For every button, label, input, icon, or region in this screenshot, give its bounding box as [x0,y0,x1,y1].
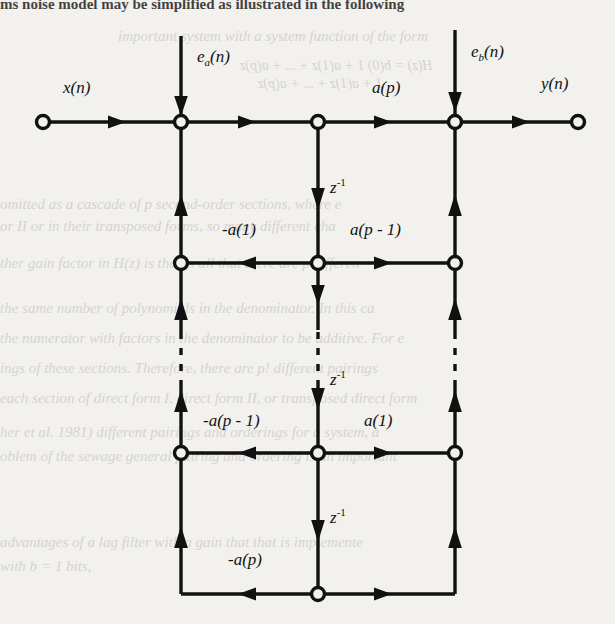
node-top-left[interactable] [175,116,188,129]
label-delay-2: z-1 [330,368,346,390]
label-gain-ap-text: a(p) [372,78,400,97]
arrowhead-right-up-2 [448,298,462,320]
label-input: x(n) [63,78,90,98]
node-row1-left[interactable] [175,257,188,270]
label-row1-left-text: -a(1) [222,220,256,239]
label-noise-a-arg: (n) [210,47,230,66]
label-row2-right-text: a(1) [364,411,392,430]
label-noise-b-arg: (n) [484,42,504,61]
arrowhead-row1-left [238,257,256,270]
label-gain-ap: a(p) [372,78,400,98]
arrowhead-right-up-4 [448,390,462,412]
label-delay-1-base: z [330,178,337,197]
arrowhead-left-up-2 [174,298,188,320]
arrowhead-row3-left [238,588,256,601]
label-output: y(n) [541,74,568,94]
node-input[interactable] [37,116,50,129]
arrowhead-delay-4 [311,520,325,542]
flow-edges [43,30,578,601]
flow-nodes [37,116,585,601]
arrowhead-top-3 [374,116,392,129]
arrowhead-noise-a [174,96,188,116]
label-row1-right-text: a(p - 1) [350,220,401,239]
node-row3-mid[interactable] [312,588,325,601]
arrowhead-row2-left [238,447,256,460]
node-row2-left[interactable] [175,447,188,460]
arrowhead-top-4 [512,116,530,129]
node-row2-right[interactable] [449,447,462,460]
label-input-text: x(n) [63,78,90,97]
figure-canvas: ms noise model may be simplified as illu… [0,0,615,624]
label-output-text: y(n) [541,74,568,93]
arrowhead-noise-b [448,92,462,112]
label-delay-3-base: z [330,508,337,527]
arrowhead-left-up-3 [174,390,188,412]
label-row1-right: a(p - 1) [350,220,401,240]
arrowhead-row2-right [374,447,392,460]
label-row2-left-text: -a(p - 1) [203,411,260,430]
arrowhead-delay-3 [311,388,325,410]
arrowhead-left-up-4 [174,526,188,548]
node-row1-right[interactable] [449,257,462,270]
label-delay-1: z-1 [330,176,346,198]
label-delay-1-sup: -1 [337,176,346,188]
arrowhead-top-1 [108,116,126,129]
label-row2-left: -a(p - 1) [203,411,260,431]
node-top-right[interactable] [449,116,462,129]
arrowhead-right-up-5 [448,526,462,548]
signal-flow-graph [0,0,615,624]
label-row1-left: -a(1) [222,220,256,240]
arrowhead-row3-right [374,588,392,601]
label-row3-left: -a(p) [228,550,262,570]
label-row2-right: a(1) [364,411,392,431]
arrowhead-top-2 [238,116,256,129]
label-noise-b-base: e [471,42,479,61]
node-row1-mid[interactable] [312,257,325,270]
node-row2-mid[interactable] [312,447,325,460]
label-delay-3: z-1 [330,506,346,528]
arrowhead-right-up-1 [448,194,462,216]
node-output[interactable] [572,116,585,129]
arrowhead-delay-2 [311,285,325,305]
label-delay-3-sup: -1 [337,506,346,518]
arrowhead-delay-1 [311,188,325,210]
label-delay-2-base: z [330,370,337,389]
arrowhead-left-up-1 [174,194,188,216]
label-noise-b: eb(n) [471,42,504,63]
label-noise-a-base: e [197,47,205,66]
node-top-mid[interactable] [312,116,325,129]
label-noise-a: ea(n) [197,47,230,68]
arrowhead-row1-right [374,257,392,270]
label-row3-left-text: -a(p) [228,550,262,569]
label-delay-2-sup: -1 [337,368,346,380]
